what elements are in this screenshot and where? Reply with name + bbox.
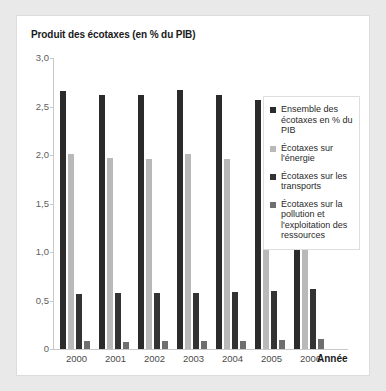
legend-swatch-icon xyxy=(270,146,276,152)
page-title: Produit des écotaxes (en % du PIB) xyxy=(31,29,195,40)
bar xyxy=(224,159,230,349)
bar xyxy=(154,293,160,349)
bar xyxy=(232,292,238,349)
y-axis-tick-mark xyxy=(50,58,53,59)
y-axis-tick-label: 2,5 xyxy=(36,101,49,112)
bar xyxy=(185,154,191,349)
bar-group: 2001 xyxy=(99,58,132,349)
bar-group: 2002 xyxy=(138,58,171,349)
x-axis-title: Année xyxy=(317,353,348,364)
x-axis-tick-label: 2005 xyxy=(255,353,288,364)
x-axis-tick-label: 2004 xyxy=(216,353,249,364)
legend-swatch-icon xyxy=(270,174,276,180)
legend-item[interactable]: Ensemble des écotaxes en % du PIB xyxy=(270,104,353,136)
x-axis-line xyxy=(53,349,348,350)
legend-item[interactable]: Écotaxes sur l'énergie xyxy=(270,143,353,164)
bar xyxy=(310,289,316,349)
legend-item[interactable]: Écotaxes sur les transports xyxy=(270,171,353,192)
legend-swatch-icon xyxy=(270,107,276,113)
legend-item-label: Écotaxes sur la pollution et l'exploitat… xyxy=(281,199,353,241)
bar-group: 2000 xyxy=(60,58,93,349)
bar xyxy=(99,95,105,349)
y-axis-tick-mark xyxy=(50,252,53,253)
bar xyxy=(60,91,66,349)
legend-item[interactable]: Écotaxes sur la pollution et l'exploitat… xyxy=(270,199,353,241)
y-axis-tick-label: 1,0 xyxy=(36,246,49,257)
bar xyxy=(201,341,207,349)
y-axis-tick-mark xyxy=(50,301,53,302)
bar xyxy=(162,341,168,349)
bar-group: 2003 xyxy=(177,58,210,349)
bar xyxy=(240,341,246,349)
bar xyxy=(177,90,183,349)
y-axis-tick-label: 3,0 xyxy=(36,52,49,63)
legend-item-label: Écotaxes sur l'énergie xyxy=(281,143,353,164)
x-axis-tick-label: 2000 xyxy=(60,353,93,364)
y-axis-tick-label: 1,5 xyxy=(36,198,49,209)
bar xyxy=(255,100,261,349)
bar xyxy=(115,293,121,349)
bar xyxy=(146,159,152,349)
bar xyxy=(271,291,277,349)
bar xyxy=(123,342,129,349)
legend-item-label: Ensemble des écotaxes en % du PIB xyxy=(281,104,353,136)
y-axis-tick-mark xyxy=(50,155,53,156)
bar xyxy=(193,293,199,349)
y-axis-tick-mark xyxy=(50,107,53,108)
bar xyxy=(216,95,222,349)
bar-group: 2004 xyxy=(216,58,249,349)
x-axis-tick-label: 2002 xyxy=(138,353,171,364)
x-axis-tick-label: 2001 xyxy=(99,353,132,364)
y-axis-tick-mark xyxy=(50,204,53,205)
chart-card: Produit des écotaxes (en % du PIB) 00,51… xyxy=(16,15,370,376)
y-axis-tick-label: 0 xyxy=(44,343,49,354)
y-axis-tick-label: 2,0 xyxy=(36,149,49,160)
legend-swatch-icon xyxy=(270,202,276,208)
bar xyxy=(279,340,285,349)
x-axis-tick-label: 2003 xyxy=(177,353,210,364)
bar xyxy=(68,154,74,349)
bar xyxy=(107,158,113,349)
bar xyxy=(84,341,90,349)
legend-item-label: Écotaxes sur les transports xyxy=(281,171,353,192)
bar xyxy=(76,294,82,349)
bar xyxy=(318,339,324,349)
y-axis-tick-mark xyxy=(50,349,53,350)
chart-legend: Ensemble des écotaxes en % du PIBÉcotaxe… xyxy=(263,96,360,250)
y-axis-tick-label: 0,5 xyxy=(36,295,49,306)
bar xyxy=(138,95,144,349)
